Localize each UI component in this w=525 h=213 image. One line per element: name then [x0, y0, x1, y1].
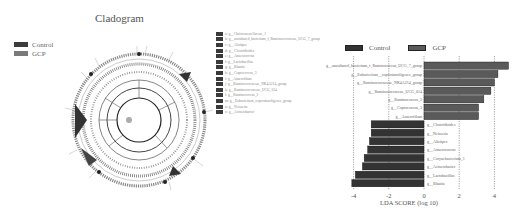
bar	[424, 112, 479, 119]
legend-control: Control	[14, 40, 53, 49]
legend-label: GCP	[32, 50, 46, 58]
cladogram-diagram	[62, 38, 216, 198]
bar-label: g__Alistipes	[427, 139, 448, 144]
lda-bar-chart: -4-2024g__uncultured_bacterium_f_Ruminoc…	[300, 56, 525, 201]
legend-control: Control	[345, 44, 390, 52]
control-swatch	[14, 42, 28, 47]
bar-label: g__Acinetobacter	[427, 164, 456, 169]
gcp-swatch	[408, 45, 426, 51]
bar	[424, 104, 479, 111]
bar	[371, 121, 424, 128]
bar	[371, 129, 424, 136]
key-item: b: g__uncultured_bacterium_f_Ruminococca…	[216, 37, 336, 43]
bar-label: g__Ruminococcaceae_UCG_014	[368, 89, 422, 94]
legend-gcp: GCP	[14, 49, 53, 58]
x-tick-label: -2	[386, 192, 391, 199]
legend-label: Control	[32, 41, 53, 49]
bar	[369, 138, 424, 145]
bar-label: g__Clostridioides	[427, 122, 456, 127]
bar-label: g__Neisseria	[427, 131, 448, 136]
bar-label: g__Blautia	[427, 181, 445, 186]
bar-label: g__Ruminococcus_2	[388, 97, 422, 102]
lda-legend: Control GCP	[345, 44, 446, 52]
x-tick-label: 4	[493, 192, 497, 199]
bar	[355, 171, 424, 178]
x-tick-label: -4	[351, 192, 357, 199]
bar-label: g__Coprococcus_3	[391, 105, 422, 110]
x-axis-label: LDA SCORE (log 10)	[380, 199, 438, 206]
bar-label: g__Anaerofilum	[396, 114, 423, 119]
bar	[424, 87, 491, 94]
cladogram-title: Cladogram	[95, 12, 144, 24]
bar-label: g__uncultured_bacterium_f_Ruminococcus_U…	[326, 63, 422, 68]
x-tick-label: 0	[422, 192, 425, 199]
bar	[424, 79, 494, 86]
x-tick-label: 2	[458, 192, 461, 199]
bar	[424, 62, 508, 69]
bar-label: g__Corynebacterium_1	[427, 156, 465, 161]
bar	[364, 154, 424, 161]
control-swatch	[345, 45, 363, 51]
cladogram-legend: Control GCP	[14, 40, 53, 58]
bar	[368, 146, 424, 153]
bar-label: g__Eubacterium__coprostanoligenes_group	[351, 72, 422, 77]
gcp-swatch	[14, 51, 28, 56]
bar-label: g__Lactobacillus	[427, 173, 455, 178]
bar	[352, 180, 424, 187]
bar	[424, 70, 498, 77]
bar	[424, 96, 484, 103]
bar-label: g__Ruminococcaceae_NK4A214_group	[357, 80, 422, 85]
bar	[362, 163, 424, 170]
bar-label: g__Anaerococcus	[427, 147, 456, 152]
legend-gcp: GCP	[408, 44, 446, 52]
